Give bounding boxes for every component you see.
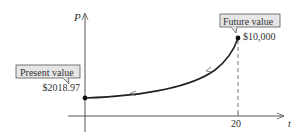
future-value-point [236, 36, 241, 41]
present-value-amount: $2018.97 [43, 82, 81, 93]
present-future-value-diagram: P t 20 Present value $2018.97 Future val… [0, 0, 301, 140]
present-value-point [83, 96, 88, 101]
future-value-label: Future value [223, 16, 274, 27]
present-value-label: Present value [20, 67, 74, 78]
x-tick-label: 20 [231, 118, 241, 129]
x-axis-label: t [288, 118, 291, 129]
y-axis-label: P [73, 11, 81, 23]
direction-arrow-icon [206, 67, 212, 72]
axes: P t 20 [68, 11, 291, 132]
future-value-amount: $10,000 [243, 31, 276, 42]
growth-curve [85, 38, 238, 98]
